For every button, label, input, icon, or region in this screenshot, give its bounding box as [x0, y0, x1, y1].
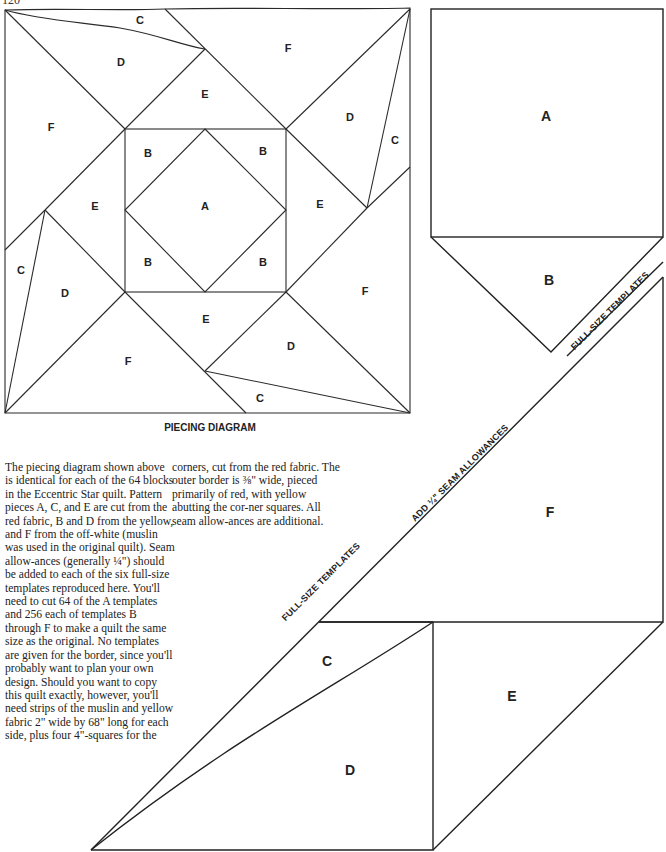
piece-label: D [287, 340, 295, 352]
piece-label: E [91, 200, 98, 212]
diagram-line [45, 210, 125, 292]
piece-label: A [201, 200, 209, 212]
template-b-label: B [544, 272, 554, 288]
piece-label: B [144, 147, 152, 159]
diagram-line [5, 210, 45, 250]
piece-label: D [117, 56, 125, 68]
diagram-line [5, 292, 125, 413]
banner-label-seam-allowance: ADD ¼" SEAM ALLOWANCES [409, 422, 510, 523]
template-e-label: E [507, 688, 516, 704]
paragraph: corners, cut from the red fabric. The ou… [172, 461, 342, 528]
piece-label: F [285, 42, 292, 54]
piece-label: B [259, 256, 267, 268]
piece-label: B [144, 256, 152, 268]
diagram-line [125, 292, 246, 413]
template-f-hypotenuse [91, 277, 663, 850]
diagram-line [125, 49, 205, 129]
piece-label: F [125, 355, 132, 367]
diagram-line [286, 292, 410, 413]
paragraph: The piecing diagram shown above is ident… [5, 461, 175, 743]
piece-label: C [136, 14, 144, 26]
piece-label: E [316, 198, 323, 210]
diagram-line [205, 371, 410, 413]
banner-label-full-size-lower: FULL-SIZE TEMPLATES [280, 541, 362, 623]
template-c-label: C [322, 653, 332, 669]
template-f-label: F [546, 504, 555, 520]
body-text-column-1: The piecing diagram shown above is ident… [5, 461, 175, 743]
template-e [433, 622, 663, 850]
diagram-line [205, 292, 286, 371]
diagram-caption: PIECING DIAGRAM [164, 422, 256, 433]
diagram-line [165, 9, 286, 129]
diagram-line [367, 167, 410, 208]
body-text-column-2: corners, cut from the red fabric. The ou… [172, 461, 342, 528]
template-d-label: D [345, 762, 355, 778]
banner-label-full-size-upper: FULL-SIZE TEMPLATES [569, 270, 651, 352]
piece-label: D [346, 111, 354, 123]
piece-label: B [259, 145, 267, 157]
template-a-label: A [541, 108, 551, 124]
piece-label: C [17, 264, 25, 276]
diagram-line [5, 210, 45, 413]
diagram-line [286, 208, 367, 292]
diagram-line [5, 10, 125, 129]
diagram-line [45, 129, 125, 210]
diagram-line [286, 129, 367, 208]
piecing-diagram: C D F E F D C B B A E E B B C D F E D F … [5, 8, 410, 433]
piece-label: F [48, 121, 55, 133]
diagram-line [367, 9, 410, 208]
piece-label: E [201, 88, 208, 100]
piece-label: C [391, 134, 399, 146]
piece-label: F [362, 285, 369, 297]
piece-label: D [61, 287, 69, 299]
piece-label: E [202, 313, 209, 325]
diagram-curve-cd [5, 10, 205, 49]
piece-label: C [256, 392, 264, 404]
